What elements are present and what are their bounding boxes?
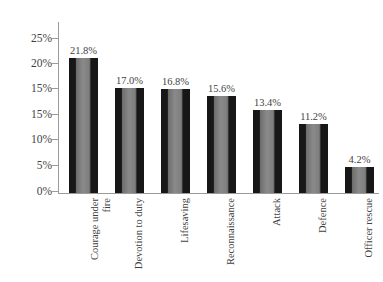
category-label-attack: Attack	[271, 198, 283, 226]
category-label-lifesaving: Lifesaving	[179, 198, 191, 243]
bar: 4.2%	[345, 167, 374, 193]
category-label-courage-under-fire: Courage under fire	[89, 198, 112, 260]
category-label-line: Lifesaving	[179, 198, 191, 243]
bar: 17.0%	[115, 88, 144, 193]
x-axis-line	[58, 193, 379, 194]
y-tick-label: 25%	[8, 33, 52, 45]
y-tick-label: 10%	[8, 134, 52, 146]
bar: 13.4%	[253, 110, 282, 193]
bar: 15.6%	[207, 96, 236, 193]
category-label-line: Devotion to duty	[133, 198, 145, 269]
bar-group: 4.2%	[345, 0, 374, 193]
y-tick-label: 5%	[8, 160, 52, 172]
category-label-line: Reconnaissance	[225, 198, 237, 265]
y-tick-label: 15%	[8, 83, 52, 95]
category-label-officer-rescue: Officer rescue	[363, 198, 375, 258]
bar-group: 16.8%	[161, 0, 190, 193]
y-tick-label: 0%	[8, 186, 52, 198]
bar-group: 17.0%	[115, 0, 144, 193]
bar-value-label: 15.6%	[185, 83, 258, 94]
bar-group: 13.4%	[253, 0, 282, 193]
bars-layer: 21.8% 17.0% 16.8% 15.6% 13.4% 11.2%	[58, 0, 379, 193]
category-label-line: Attack	[271, 198, 283, 226]
bar-chart: 25% 20% 15% 15% 10% 5% 0%	[0, 0, 383, 282]
category-label-reconnaissance: Reconnaissance	[225, 198, 237, 265]
bar-value-label: 21.8%	[47, 45, 120, 56]
bar-group: 21.8%	[69, 0, 98, 193]
category-label-defence: Defence	[317, 198, 329, 233]
bar-value-label: 4.2%	[323, 154, 383, 165]
bar: 16.8%	[161, 89, 190, 193]
category-label-line: Defence	[317, 198, 329, 233]
category-label-line: Officer rescue	[363, 198, 375, 258]
bar-value-label: 13.4%	[231, 97, 304, 108]
y-tick-label: 20%	[8, 58, 52, 70]
category-label-line: fire	[101, 198, 113, 260]
y-tick-label: 15%	[8, 109, 52, 121]
bar-value-label: 11.2%	[277, 111, 350, 122]
category-label-line: Courage under	[89, 198, 101, 260]
category-label-devotion-to-duty: Devotion to duty	[133, 198, 145, 269]
